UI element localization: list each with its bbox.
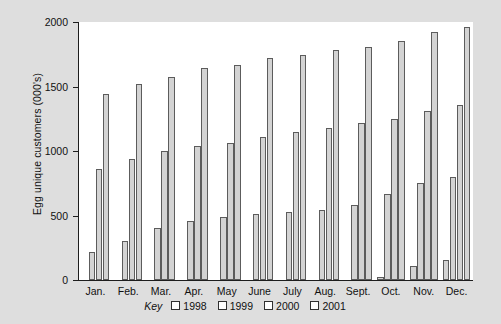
bar-2001-May bbox=[234, 65, 241, 280]
bar-group bbox=[279, 22, 307, 280]
bar-group bbox=[115, 22, 143, 280]
bar-2000-Apr bbox=[194, 146, 201, 280]
bar-group bbox=[246, 22, 274, 280]
bar-2001-Feb bbox=[136, 84, 143, 280]
bar-group bbox=[344, 22, 372, 280]
bar-group bbox=[180, 22, 208, 280]
bar-2000-July bbox=[293, 132, 300, 280]
bar-2000-Oct bbox=[391, 119, 398, 280]
y-tick-mark bbox=[73, 216, 79, 217]
legend-swatch-icon bbox=[264, 301, 273, 310]
bar-1999-Oct bbox=[384, 194, 391, 280]
bar-2001-Oct bbox=[398, 41, 405, 280]
y-tick-mark bbox=[73, 280, 79, 281]
bar-2000-Dec bbox=[457, 105, 464, 280]
bar-2000-Nov bbox=[424, 111, 431, 280]
bar-2001-June bbox=[267, 58, 274, 280]
bar-2000-May bbox=[227, 143, 234, 280]
bar-1999-Apr bbox=[187, 221, 194, 280]
bar-group bbox=[443, 22, 471, 280]
x-tick-label-Dec: Dec. bbox=[427, 285, 487, 297]
bar-2000-Aug bbox=[326, 128, 333, 280]
bar-1999-July bbox=[286, 212, 293, 280]
bar-group bbox=[377, 22, 405, 280]
bar-group bbox=[312, 22, 340, 280]
bar-2001-Aug bbox=[333, 50, 340, 280]
bar-2001-Nov bbox=[431, 32, 438, 280]
bar-1999-June bbox=[253, 214, 260, 280]
legend-swatch-icon bbox=[171, 301, 180, 310]
legend-entries: 1998199920002001 bbox=[171, 300, 356, 312]
bar-1999-May bbox=[220, 217, 227, 280]
bar-1998-Nov bbox=[410, 266, 417, 280]
bar-1999-Jan bbox=[89, 252, 96, 280]
y-tick-label: 0 bbox=[28, 275, 68, 286]
bar-2000-Mar bbox=[161, 151, 168, 280]
legend-label: 1998 bbox=[183, 300, 206, 312]
bar-1998-Dec bbox=[443, 260, 450, 280]
y-axis-title: Egg unique customers (000's) bbox=[31, 29, 43, 259]
chart-figure: Egg unique customers (000's) 20001500100… bbox=[0, 0, 501, 324]
bar-group bbox=[147, 22, 175, 280]
bar-group bbox=[213, 22, 241, 280]
bar-1998-Oct bbox=[377, 277, 384, 280]
bar-1999-Aug bbox=[319, 210, 326, 280]
bar-1999-Sept bbox=[351, 205, 358, 280]
bar-2001-Dec bbox=[464, 27, 471, 280]
legend-entry-1999: 1999 bbox=[218, 300, 253, 312]
y-tick-label: 500 bbox=[28, 211, 68, 222]
legend-title: Key bbox=[144, 300, 162, 312]
legend: Key1998199920002001 bbox=[0, 300, 501, 312]
legend-entry-2001: 2001 bbox=[310, 300, 345, 312]
y-tick-mark bbox=[73, 22, 79, 23]
legend-swatch-icon bbox=[310, 301, 319, 310]
y-tick-mark bbox=[73, 87, 79, 88]
legend-swatch-icon bbox=[218, 301, 227, 310]
legend-entry-1998: 1998 bbox=[171, 300, 206, 312]
bar-2001-July bbox=[300, 55, 307, 280]
bar-2000-June bbox=[260, 137, 267, 280]
y-tick-mark bbox=[73, 151, 79, 152]
bar-1999-Nov bbox=[417, 183, 424, 280]
legend-label: 2000 bbox=[276, 300, 299, 312]
bar-group bbox=[82, 22, 110, 280]
bar-1999-Feb bbox=[122, 241, 129, 280]
bar-2001-Mar bbox=[168, 77, 175, 280]
bar-2001-Jan bbox=[103, 94, 110, 280]
bar-2001-Sept bbox=[365, 47, 372, 280]
bar-2000-Feb bbox=[129, 159, 136, 280]
y-tick-label: 2000 bbox=[28, 17, 68, 28]
bar-1999-Mar bbox=[154, 228, 161, 280]
bar-1999-Dec bbox=[450, 177, 457, 280]
y-tick-label: 1000 bbox=[28, 146, 68, 157]
legend-label: 2001 bbox=[322, 300, 345, 312]
bar-group bbox=[410, 22, 438, 280]
y-tick-label: 1500 bbox=[28, 82, 68, 93]
legend-entry-2000: 2000 bbox=[264, 300, 299, 312]
x-axis-line bbox=[78, 280, 473, 281]
legend-label: 1999 bbox=[230, 300, 253, 312]
bar-2000-Sept bbox=[358, 123, 365, 280]
bar-2000-Jan bbox=[96, 169, 103, 280]
bar-2001-Apr bbox=[201, 68, 208, 280]
